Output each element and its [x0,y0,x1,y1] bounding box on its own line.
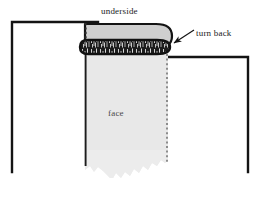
fabric-turn-back-diagram: underside turn back face [0,0,269,197]
label-underside: underside [101,6,138,16]
label-turn-back: turn back [196,28,232,38]
fabric-face-panel [85,48,168,178]
label-face: face [108,108,124,118]
turn-back-arrow [174,30,194,43]
fold-band [80,40,170,54]
right-frame-outline [168,57,248,172]
